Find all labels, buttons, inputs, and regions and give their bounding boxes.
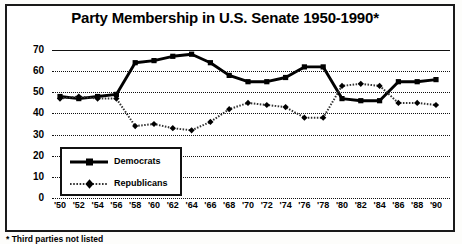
data-point	[358, 81, 364, 87]
gridline-30	[52, 135, 450, 136]
data-point	[170, 54, 175, 59]
y-tick-label-50: 50	[0, 87, 44, 97]
x-tick-label-1: '52	[73, 200, 85, 210]
data-point	[433, 77, 438, 82]
x-tick-label-0: '50	[54, 200, 66, 210]
chart-legend: Democrats Republicans	[60, 147, 182, 196]
data-point	[151, 121, 157, 127]
data-point	[377, 98, 382, 103]
y-tick-label-30: 30	[0, 130, 44, 140]
x-tick-label-10: '70	[242, 200, 254, 210]
x-tick-label-7: '64	[186, 200, 198, 210]
legend-swatch-democrats	[68, 152, 110, 172]
data-point	[283, 104, 289, 110]
data-point	[414, 100, 420, 106]
data-point	[301, 115, 307, 121]
gridline-60	[52, 71, 450, 72]
chart-title: Party Membership in U.S. Senate 1950-199…	[0, 9, 450, 26]
data-point	[321, 64, 326, 69]
x-tick-label-14: '78	[317, 200, 329, 210]
data-point	[283, 75, 288, 80]
data-point	[189, 52, 194, 57]
y-tick-label-0: 0	[0, 193, 44, 203]
series-democrats	[57, 52, 438, 104]
data-point	[133, 60, 138, 65]
data-point	[264, 102, 270, 108]
data-point	[132, 123, 138, 129]
chart-figure: Party Membership in U.S. Senate 1950-199…	[0, 0, 462, 244]
x-tick-label-19: '88	[411, 200, 423, 210]
x-tick-label-17: '84	[374, 200, 386, 210]
data-point	[264, 79, 269, 84]
x-tick-label-16: '82	[355, 200, 367, 210]
data-point	[208, 60, 213, 65]
gridline-0	[52, 198, 450, 199]
data-point	[433, 102, 439, 108]
chart-footnote: * Third parties not listed	[6, 234, 103, 244]
data-point	[227, 73, 232, 78]
x-tick-label-8: '66	[204, 200, 216, 210]
x-tick-label-6: '62	[167, 200, 179, 210]
legend-item-democrats: Democrats	[62, 152, 184, 172]
y-tick-label-20: 20	[0, 151, 44, 161]
x-tick-label-4: '58	[129, 200, 141, 210]
x-tick-label-13: '76	[298, 200, 310, 210]
x-tick-label-15: '80	[336, 200, 348, 210]
data-point	[207, 119, 213, 125]
y-tick-label-60: 60	[0, 66, 44, 76]
gridline-50	[52, 92, 450, 93]
x-tick-label-3: '56	[110, 200, 122, 210]
x-axis-ticks: '50'52'54'56'58'60'62'64'66'68'70'72'74'…	[52, 200, 452, 216]
data-point	[245, 79, 250, 84]
data-point	[189, 127, 195, 133]
data-point	[245, 100, 251, 106]
data-point	[358, 98, 363, 103]
y-tick-label-70: 70	[0, 45, 44, 55]
legend-swatch-republicans	[68, 174, 110, 194]
x-tick-label-18: '86	[392, 200, 404, 210]
legend-label-republicans: Republicans	[114, 178, 168, 188]
data-point	[151, 58, 156, 63]
data-point	[396, 79, 401, 84]
data-point	[415, 79, 420, 84]
data-point	[170, 125, 176, 131]
series-republicans	[57, 81, 439, 134]
y-tick-label-10: 10	[0, 172, 44, 182]
y-tick-label-40: 40	[0, 108, 44, 118]
data-point	[302, 64, 307, 69]
gridline-70	[52, 50, 450, 51]
data-point	[339, 96, 344, 101]
gridline-40	[52, 113, 450, 114]
x-tick-label-5: '60	[148, 200, 160, 210]
legend-item-republicans: Republicans	[62, 174, 184, 194]
x-tick-label-2: '54	[92, 200, 104, 210]
x-tick-label-12: '74	[280, 200, 292, 210]
x-tick-label-9: '68	[223, 200, 235, 210]
x-tick-label-20: '90	[430, 200, 442, 210]
legend-label-democrats: Democrats	[114, 156, 161, 166]
x-tick-label-11: '72	[261, 200, 273, 210]
